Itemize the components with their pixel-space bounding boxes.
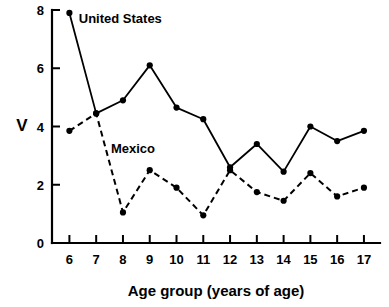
series-markers <box>66 10 367 219</box>
y-tick-label: 6 <box>37 61 44 76</box>
x-tick-label: 7 <box>93 252 100 267</box>
y-tick-label: 8 <box>37 3 44 18</box>
x-tick-label: 17 <box>357 252 371 267</box>
x-tick-label: 16 <box>330 252 344 267</box>
series-annotations: United StatesMexico <box>79 11 162 156</box>
data-point <box>281 198 287 204</box>
data-point <box>307 170 313 176</box>
data-point <box>254 141 260 147</box>
y-tick-label: 2 <box>37 178 44 193</box>
x-tick-label: 10 <box>169 252 183 267</box>
y-tick-label: 0 <box>37 236 44 251</box>
data-point <box>334 138 340 144</box>
y-axis-title: V <box>16 116 28 135</box>
data-point <box>93 110 99 116</box>
series-line-mexico <box>69 113 364 215</box>
data-point <box>66 128 72 134</box>
chart-figure: V 02468 67891011121314151617 United Stat… <box>0 0 389 307</box>
data-point <box>120 97 126 103</box>
data-point <box>307 123 313 129</box>
data-point <box>200 116 206 122</box>
line-chart: V 02468 67891011121314151617 United Stat… <box>0 0 389 307</box>
data-point <box>173 104 179 110</box>
x-tick-label: 11 <box>196 252 210 267</box>
series-annotation-mexico: Mexico <box>111 141 155 156</box>
x-tick-label: 9 <box>146 252 153 267</box>
data-point <box>147 62 153 68</box>
x-tick-label: 12 <box>223 252 237 267</box>
data-point <box>361 185 367 191</box>
series-lines <box>69 13 364 215</box>
data-point <box>334 193 340 199</box>
x-tick-label: 8 <box>119 252 126 267</box>
data-point <box>66 10 72 16</box>
data-point <box>147 167 153 173</box>
y-tick-label: 4 <box>37 120 45 135</box>
x-axis-title: Age group (years of age) <box>128 282 305 299</box>
data-point <box>227 167 233 173</box>
x-axis-ticks: 67891011121314151617 <box>66 235 371 267</box>
data-point <box>361 128 367 134</box>
x-tick-label: 15 <box>303 252 317 267</box>
y-axis-ticks: 02468 <box>37 3 60 251</box>
data-point <box>173 185 179 191</box>
x-tick-label: 14 <box>276 252 291 267</box>
data-point <box>200 212 206 218</box>
x-tick-label: 6 <box>66 252 73 267</box>
series-annotation-united-states: United States <box>79 11 162 26</box>
x-tick-label: 13 <box>250 252 264 267</box>
data-point <box>281 169 287 175</box>
data-point <box>254 189 260 195</box>
data-point <box>120 209 126 215</box>
